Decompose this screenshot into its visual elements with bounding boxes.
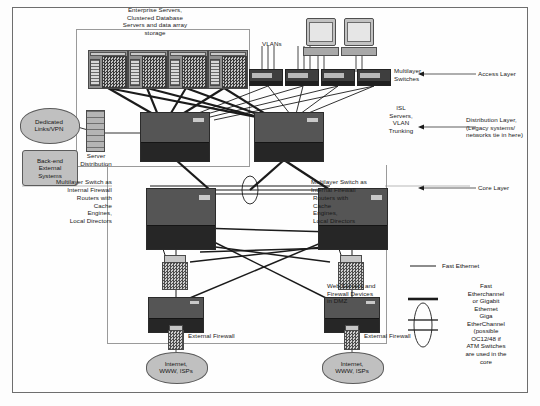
label-vlans: VLANs [262,40,302,48]
firewall-brick [162,262,188,290]
switch-base [322,81,354,85]
cloud-label: Internet, WWW, ISPs [322,352,382,382]
access-switch-2 [285,69,319,86]
label-external-firewall-left: External Firewall [188,332,250,340]
firewall-brick [168,330,184,350]
label-multilayer-switches: Multilayer Switches [394,67,438,82]
cloud-dedicated-links-vpn: Dedicated Links/VPN [20,108,78,142]
label-server-distribution: Server Distribution [72,152,120,167]
switch-ports [360,73,380,78]
enterprise-server-3 [168,50,208,89]
switch-ports [324,73,344,78]
server-disk-array [102,56,128,88]
switch-base [255,142,323,161]
annotation-core-layer: Core Layer [478,184,536,192]
distribution-switch-left [140,112,210,162]
server-disk-array [142,56,168,88]
annotation-access-layer: Access Layer [478,70,536,78]
switch-status-leds [307,118,318,122]
cloud-internet-right: Internet, WWW, ISPs [322,352,382,382]
server-vent [90,59,100,86]
label-routers-cache-right: Routers with Cache Engines, Local Direct… [313,194,385,224]
monitor-screen [347,22,371,42]
switch-ports [252,73,272,78]
server-disk-array [182,56,208,88]
switch-ports [288,73,308,78]
cloud-internet-left: Internet, WWW, ISPs [146,352,206,382]
label-isl-servers-vlan-trunking: ISL Servers, VLAN Trunking [381,104,421,134]
group-label-enterprise-servers: Enterprise Servers, Clustered Database S… [95,6,215,36]
legend-item-fast-ethernet: Fast Ethernet [442,262,528,270]
legend-item-giga-etherchannel: Giga EtherChannel (possible OC12/48 if A… [442,312,530,365]
web-server-firewall-left [162,262,188,290]
switch-base [286,81,318,85]
box-label: Back-end External Systems [37,157,63,180]
enterprise-server-1 [88,50,128,89]
cloud-label: Internet, WWW, ISPs [146,352,206,382]
network-architecture-diagram: Enterprise Servers, Clustered Database S… [0,0,540,406]
firewall-brick [344,330,360,350]
label-internal-firewall-left: Multilayer Switch as Internal Firewall [36,178,112,193]
access-switch-4 [357,69,391,86]
switch-status-leds [199,195,210,200]
server-vent [210,59,220,86]
enterprise-server-2 [128,50,168,89]
core-switch-left [146,188,216,250]
workstation-monitor-2 [341,18,377,56]
label-routers-cache-left: Routers with Cache Engines, Local Direct… [40,194,112,224]
access-switch-3 [321,69,355,86]
server-vent [170,59,180,86]
server-disk-array [222,56,248,88]
server-distribution-rack [86,110,105,152]
distribution-switch-right [254,112,324,162]
access-switch-1 [249,69,283,86]
switch-base [319,225,387,249]
server-vent [130,59,140,86]
label-external-firewall-right: External Firewall [364,332,426,340]
monitor-base [341,47,377,56]
workstation-monitor-1 [303,18,339,56]
cloud-label: Dedicated Links/VPN [20,108,78,142]
switch-base [250,81,282,85]
legend-item-fast-etherchannel: Fast Etherchannel or Gigabit Ethernet [442,282,530,312]
switch-status-leds [190,301,199,304]
enterprise-server-4 [208,50,248,89]
switch-base [358,81,390,85]
monitor-base [303,47,339,56]
switch-status-leds [193,118,204,122]
external-firewall-device-right [344,330,360,350]
switch-base [141,142,209,161]
label-internal-firewall-right: Multilayer Switch as Internal Firewall [311,178,389,193]
monitor-screen [309,22,333,42]
switch-base [147,225,215,249]
label-web-servers-dmz: Web Servers and Firewall Devices in DMZ [327,282,387,305]
annotation-distribution-layer: Distribution Layer, (Legacy systems/ net… [466,116,538,139]
external-firewall-device-left [168,330,184,350]
